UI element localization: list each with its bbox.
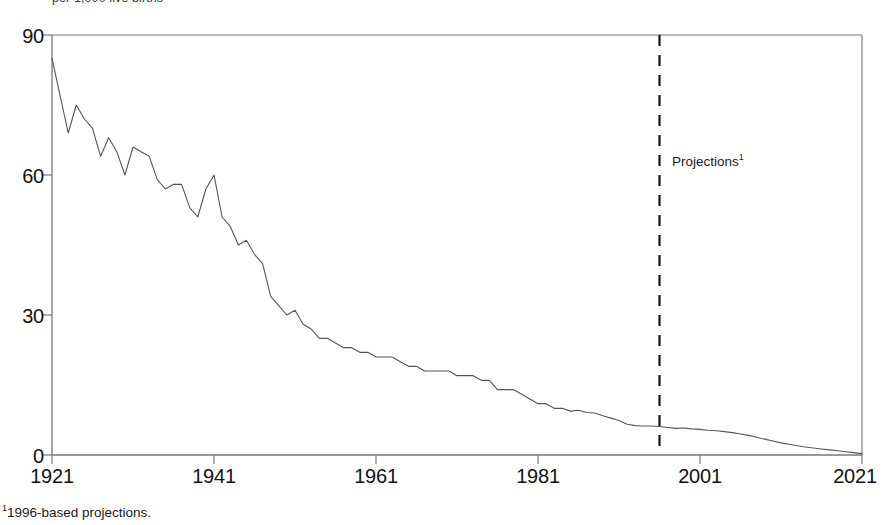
y-tick-label-30: 30	[2, 305, 44, 328]
projections-annotation-marker: 1	[739, 152, 744, 162]
projections-annotation-text: Projections	[672, 154, 739, 169]
x-tick-label-1921: 1921	[7, 465, 97, 488]
x-tick-label-2001: 2001	[655, 465, 745, 488]
x-tick-label-2021: 2021	[810, 465, 882, 488]
y-tick-label-60: 60	[2, 165, 44, 188]
chart-figure: per 1,000 live births 0 30 60 90 1921 19…	[0, 0, 882, 525]
x-tick-label-1941: 1941	[169, 465, 259, 488]
data-line-series-0	[52, 58, 862, 453]
line-chart-plot	[0, 0, 882, 525]
footnote: 11996-based projections.	[2, 503, 151, 520]
x-tick-label-1981: 1981	[493, 465, 583, 488]
projections-annotation: Projections1	[672, 152, 744, 169]
x-tick-label-1961: 1961	[331, 465, 421, 488]
footnote-text: 1996-based projections.	[7, 505, 151, 520]
y-tick-label-90: 90	[2, 25, 44, 48]
